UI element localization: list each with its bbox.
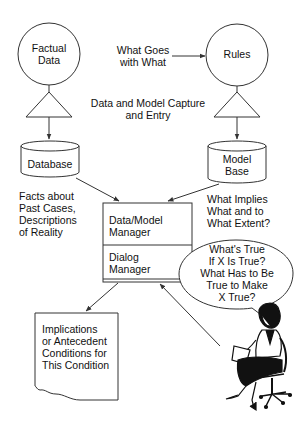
output-document-text: Implications or Antecedent Conditions fo… — [42, 323, 118, 371]
bubble-line4: True to Make — [188, 279, 286, 291]
rules-label: Rules — [207, 48, 267, 60]
model-base-line2: Base — [208, 165, 266, 177]
dialog-manager-line1: Dialog — [109, 251, 179, 263]
what-goes-line2: with What — [110, 56, 176, 68]
implies-annotation: What Implies What and to What Extent? — [207, 193, 293, 229]
document-line2: or Antecedent — [42, 335, 118, 347]
capture-annotation: Data and Model Capture and Entry — [80, 97, 216, 121]
bubble-line3: What Has to Be — [188, 267, 286, 279]
database-label: Database — [21, 158, 79, 170]
seated-woman-icon — [226, 303, 292, 410]
data-model-manager-line2: Manager — [109, 226, 189, 238]
what-goes-line1: What Goes — [110, 44, 176, 56]
bubble-line1: What's True — [188, 243, 286, 255]
facts-line3: Descriptions — [19, 214, 99, 226]
factual-data-label: Factual Data — [19, 42, 79, 66]
data-model-manager-line1: Data/Model — [109, 214, 189, 226]
bubble-line5: X True? — [188, 291, 286, 303]
factual-data-line1: Factual — [19, 42, 79, 54]
what-goes-annotation: What Goes with What — [110, 44, 176, 68]
capture-line2: and Entry — [80, 109, 216, 121]
capture-triangle-right — [214, 92, 260, 117]
database-text: Database — [21, 158, 79, 170]
rules-text: Rules — [207, 48, 267, 60]
facts-line2: Past Cases, — [19, 202, 99, 214]
model-base-label: Model Base — [208, 153, 266, 177]
implies-line2: What and to — [207, 205, 293, 217]
document-line1: Implications — [42, 323, 118, 335]
factual-data-line2: Data — [19, 54, 79, 66]
implies-line3: What Extent? — [207, 217, 293, 229]
facts-line4: of Reality — [19, 226, 99, 238]
model-base-line1: Model — [208, 153, 266, 165]
dialog-manager-label: Dialog Manager — [109, 251, 179, 275]
facts-line1: Facts about — [19, 190, 99, 202]
dialog-manager-line2: Manager — [109, 263, 179, 275]
speech-bubble-text: What's True If X Is True? What Has to Be… — [188, 243, 286, 303]
bubble-line2: If X Is True? — [188, 255, 286, 267]
capture-line1: Data and Model Capture — [80, 97, 216, 109]
facts-annotation: Facts about Past Cases, Descriptions of … — [19, 190, 99, 238]
implies-line1: What Implies — [207, 193, 293, 205]
document-line3: Conditions for — [42, 347, 118, 359]
capture-triangle-left — [26, 92, 72, 117]
document-line4: This Condition — [42, 359, 118, 371]
data-model-manager-label: Data/Model Manager — [109, 214, 189, 238]
